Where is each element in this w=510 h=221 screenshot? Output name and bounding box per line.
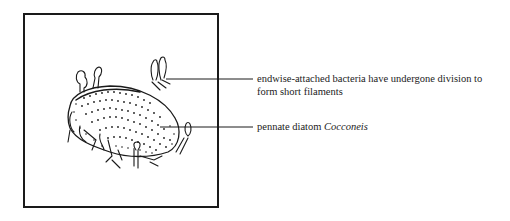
bacterium [76,71,87,92]
diatom-illustration [0,0,510,221]
label-diatom-text: pennate diatom [257,121,324,132]
label-bacteria-line1: endwise-attached bacteria have undergone… [257,72,482,85]
bacterium [134,142,140,168]
diatom-body [68,86,179,157]
label-bacteria-line2: form short filaments [257,85,482,98]
label-diatom: pennate diatom Cocconeis [257,120,368,133]
bacteria-filament [151,60,158,80]
label-diatom-genus: Cocconeis [324,121,368,132]
bacterium [93,67,102,88]
bacteria-filament [159,57,166,80]
label-bacteria: endwise-attached bacteria have undergone… [257,72,482,98]
